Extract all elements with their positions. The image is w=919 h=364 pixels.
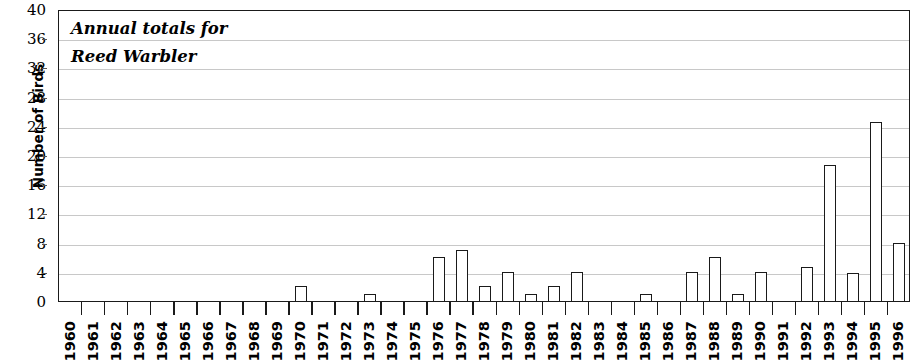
y-tick-mark: [42, 156, 47, 157]
x-tick-label: 1987: [684, 311, 699, 364]
y-tick-label: 8: [10, 236, 46, 251]
x-tick-mark: [519, 302, 520, 315]
x-tick-mark: [565, 302, 566, 315]
x-tick-label: 1982: [569, 311, 584, 364]
x-tick-mark: [887, 302, 888, 315]
x-tick-mark: [196, 302, 197, 315]
x-tick-mark: [104, 302, 105, 315]
x-tick-mark: [150, 302, 151, 315]
x-tick-mark: [703, 302, 704, 315]
y-tick-mark: [42, 39, 47, 40]
bar: [640, 294, 652, 301]
x-tick-mark: [680, 302, 681, 315]
y-tick-label: 16: [10, 178, 46, 193]
y-tick-label: 24: [10, 119, 46, 134]
x-tick-mark: [219, 302, 220, 315]
x-tick-mark: [81, 302, 82, 315]
x-tick-label: 1969: [270, 311, 285, 364]
x-tick-mark: [173, 302, 174, 315]
chart-title: Annual totals for Reed Warbler: [71, 15, 228, 71]
x-tick-mark: [864, 302, 865, 315]
chart-title-line-2: Reed Warbler: [71, 43, 228, 71]
x-tick-label: 1985: [638, 311, 653, 364]
x-tick-label: 1970: [293, 311, 308, 364]
x-tick-label: 1992: [799, 311, 814, 364]
x-tick-label: 1967: [223, 311, 238, 364]
chart-title-line-1: Annual totals for: [71, 15, 228, 43]
x-tick-label: 1984: [615, 311, 630, 364]
bar: [571, 272, 583, 301]
bar: [893, 243, 905, 301]
x-axis-tick-labels: 1960196119621963196419651966196719681969…: [58, 316, 910, 355]
x-tick-mark: [334, 302, 335, 315]
bar: [870, 122, 882, 301]
bar: [525, 294, 537, 301]
x-tick-label: 1963: [131, 311, 146, 364]
y-tick-mark: [42, 273, 47, 274]
x-tick-label: 1983: [592, 311, 607, 364]
x-tick-mark: [403, 302, 404, 315]
x-tick-mark: [449, 302, 450, 315]
y-tick-mark: [42, 68, 47, 69]
x-tick-mark: [818, 302, 819, 315]
y-tick-mark: [42, 185, 47, 186]
x-tick-mark: [542, 302, 543, 315]
x-tick-label: 1981: [546, 311, 561, 364]
x-tick-label: 1979: [500, 311, 515, 364]
y-tick-label: 28: [10, 90, 46, 105]
bar: [709, 257, 721, 301]
bar: [433, 257, 445, 301]
x-tick-label: 1978: [477, 311, 492, 364]
y-tick-label: 36: [10, 32, 46, 47]
x-tick-label: 1989: [730, 311, 745, 364]
x-tick-mark: [472, 302, 473, 315]
x-tick-label: 1960: [62, 311, 77, 364]
x-tick-mark: [288, 302, 289, 315]
x-tick-label: 1961: [85, 311, 100, 364]
bar: [824, 165, 836, 302]
x-tick-label: 1965: [177, 311, 192, 364]
y-axis-tick-labels: 0481216202428323640: [10, 10, 46, 302]
x-tick-mark: [588, 302, 589, 315]
x-tick-label: 1972: [339, 311, 354, 364]
x-tick-mark: [726, 302, 727, 315]
x-tick-label: 1975: [408, 311, 423, 364]
x-tick-label: 1994: [845, 311, 860, 364]
bar: [847, 273, 859, 301]
x-tick-mark: [311, 302, 312, 315]
bar: [456, 250, 468, 301]
y-tick-mark: [42, 127, 47, 128]
plot-area: Annual totals for Reed Warbler: [58, 10, 910, 302]
x-tick-label: 1964: [154, 311, 169, 364]
bar: [548, 286, 560, 301]
x-tick-label: 1968: [246, 311, 261, 364]
bar: [295, 286, 307, 301]
x-tick-label: 1995: [868, 311, 883, 364]
x-tick-mark: [242, 302, 243, 315]
x-tick-mark: [265, 302, 266, 315]
x-tick-label: 1988: [707, 311, 722, 364]
x-tick-label: 1976: [431, 311, 446, 364]
x-tick-mark: [634, 302, 635, 315]
x-tick-mark: [426, 302, 427, 315]
bar: [801, 267, 813, 301]
y-tick-label: 40: [10, 3, 46, 18]
x-tick-mark: [772, 302, 773, 315]
y-tick-mark: [42, 98, 47, 99]
x-tick-label: 1973: [362, 311, 377, 364]
x-tick-label: 1971: [316, 311, 331, 364]
x-tick-mark: [357, 302, 358, 315]
bar: [732, 294, 744, 301]
x-tick-label: 1986: [661, 311, 676, 364]
y-tick-label: 12: [10, 207, 46, 222]
y-tick-mark: [42, 214, 47, 215]
bar: [686, 272, 698, 301]
x-tick-label: 1993: [822, 311, 837, 364]
x-tick-label: 1990: [753, 311, 768, 364]
x-tick-mark: [841, 302, 842, 315]
y-tick-label: 20: [10, 149, 46, 164]
x-tick-label: 1980: [523, 311, 538, 364]
x-tick-label: 1991: [776, 311, 791, 364]
x-tick-mark: [611, 302, 612, 315]
